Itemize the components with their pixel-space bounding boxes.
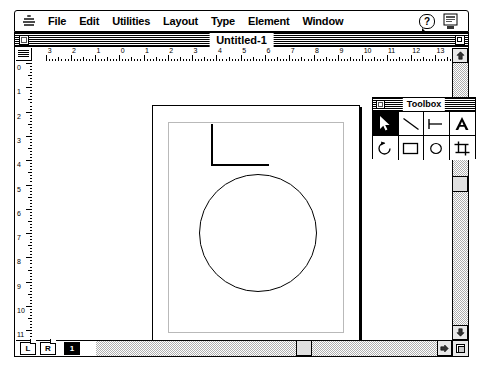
document-page[interactable] (152, 105, 360, 340)
close-box-icon[interactable] (376, 100, 385, 109)
ruler-label: 4 (17, 161, 21, 169)
window-title: Untitled-1 (209, 33, 274, 47)
menu-edit[interactable]: Edit (79, 11, 99, 31)
ruler-label: 6 (267, 48, 271, 55)
ruler-label: 5 (242, 48, 246, 55)
constrained-line-tool[interactable] (424, 112, 450, 136)
ruler-label: 1 (145, 48, 149, 55)
ruler-label: 8 (315, 48, 319, 55)
toolbox-title-bar[interactable]: Toolbox (373, 98, 475, 112)
line-tool[interactable] (399, 112, 425, 136)
master-page-right[interactable]: R (40, 342, 56, 355)
ruler-label: 2 (72, 48, 76, 55)
ruler-label: 4 (218, 48, 222, 55)
help-balloon-icon[interactable]: ? (419, 14, 435, 29)
horizontal-scroll-thumb[interactable] (296, 340, 312, 356)
ruler-label: 2 (17, 113, 21, 121)
page-fold-corner (50, 339, 56, 344)
page-icon-1[interactable]: 1 (64, 342, 80, 355)
crop-tool[interactable] (450, 136, 476, 160)
zoom-box-icon[interactable] (455, 35, 465, 45)
scroll-down-arrow-icon[interactable] (452, 325, 468, 340)
ruler-label: 10 (364, 48, 372, 55)
vertical-scroll-thumb[interactable] (452, 176, 468, 192)
rectangle-tool[interactable] (399, 136, 425, 160)
ruler-label: 7 (17, 234, 21, 242)
vertical-ruler[interactable]: 01234567891011 (16, 61, 33, 340)
menu-element[interactable]: Element (248, 11, 289, 31)
master-page-left[interactable]: L (20, 342, 36, 355)
ruler-label: 2 (169, 48, 173, 55)
ruler-label: 7 (291, 48, 295, 55)
clock-hand-horizontal[interactable] (211, 164, 269, 166)
document-window: Untitled-1 321012345678910111213 0123456… (14, 32, 469, 357)
ruler-label: 1 (96, 48, 100, 55)
rotate-tool[interactable] (373, 136, 399, 160)
apple-logo-icon[interactable] (23, 15, 35, 28)
clock-hand-vertical[interactable] (211, 124, 213, 166)
ruler-origin-box[interactable] (16, 48, 32, 61)
menu-utilities[interactable]: Utilities (112, 11, 150, 31)
ruler-label: 10 (17, 307, 25, 315)
toolbox-title: Toolbox (403, 98, 445, 111)
ruler-label: 9 (339, 48, 343, 55)
ruler-label: 13 (437, 48, 445, 55)
close-box-icon[interactable] (19, 35, 29, 45)
menu-type[interactable]: Type (211, 11, 235, 31)
page-icon-1-label: 1 (70, 344, 74, 353)
horizontal-ruler[interactable]: 321012345678910111213 (32, 48, 452, 62)
ruler-label: 3 (194, 48, 198, 55)
ruler-label: 1 (17, 88, 21, 96)
screen: File Edit Utilities Layout Type Element … (0, 0, 485, 367)
ruler-label: 9 (17, 283, 21, 291)
clock-circle[interactable] (199, 174, 317, 292)
ellipse-tool[interactable] (424, 136, 450, 160)
menu-layout[interactable]: Layout (163, 11, 198, 31)
ruler-label: 11 (388, 48, 395, 55)
scroll-up-arrow-icon[interactable] (452, 48, 468, 63)
menu-window[interactable]: Window (302, 11, 343, 31)
pointer-tool[interactable] (373, 112, 399, 136)
page-icon-bar: L R 1 (16, 340, 96, 356)
text-tool[interactable] (450, 112, 476, 136)
page-fold-corner (30, 339, 36, 344)
toolbox-tool-grid (373, 112, 475, 160)
vertical-scrollbar[interactable] (452, 48, 468, 340)
scroll-right-arrow-icon[interactable] (437, 340, 452, 356)
window-title-bar[interactable]: Untitled-1 (15, 33, 468, 47)
application-switcher-icon[interactable] (442, 13, 460, 30)
menu-file[interactable]: File (48, 11, 66, 31)
toolbox-palette[interactable]: Toolbox (372, 97, 476, 159)
ruler-label: 0 (17, 64, 21, 72)
ruler-label: 6 (17, 210, 21, 218)
resize-grip-icon[interactable] (452, 340, 468, 356)
ruler-label: 0 (121, 48, 125, 55)
menu-bar: File Edit Utilities Layout Type Element … (14, 10, 469, 32)
master-page-right-label: R (45, 344, 51, 353)
ruler-label: 8 (17, 258, 21, 266)
ruler-label: 11 (17, 331, 24, 339)
ruler-label: 12 (412, 48, 420, 55)
ruler-label: 3 (48, 48, 52, 55)
master-page-left-label: L (26, 344, 31, 353)
menu-items: File Edit Utilities Layout Type Element … (23, 11, 343, 31)
ruler-label: 5 (17, 186, 21, 194)
ruler-label: 3 (17, 137, 21, 145)
